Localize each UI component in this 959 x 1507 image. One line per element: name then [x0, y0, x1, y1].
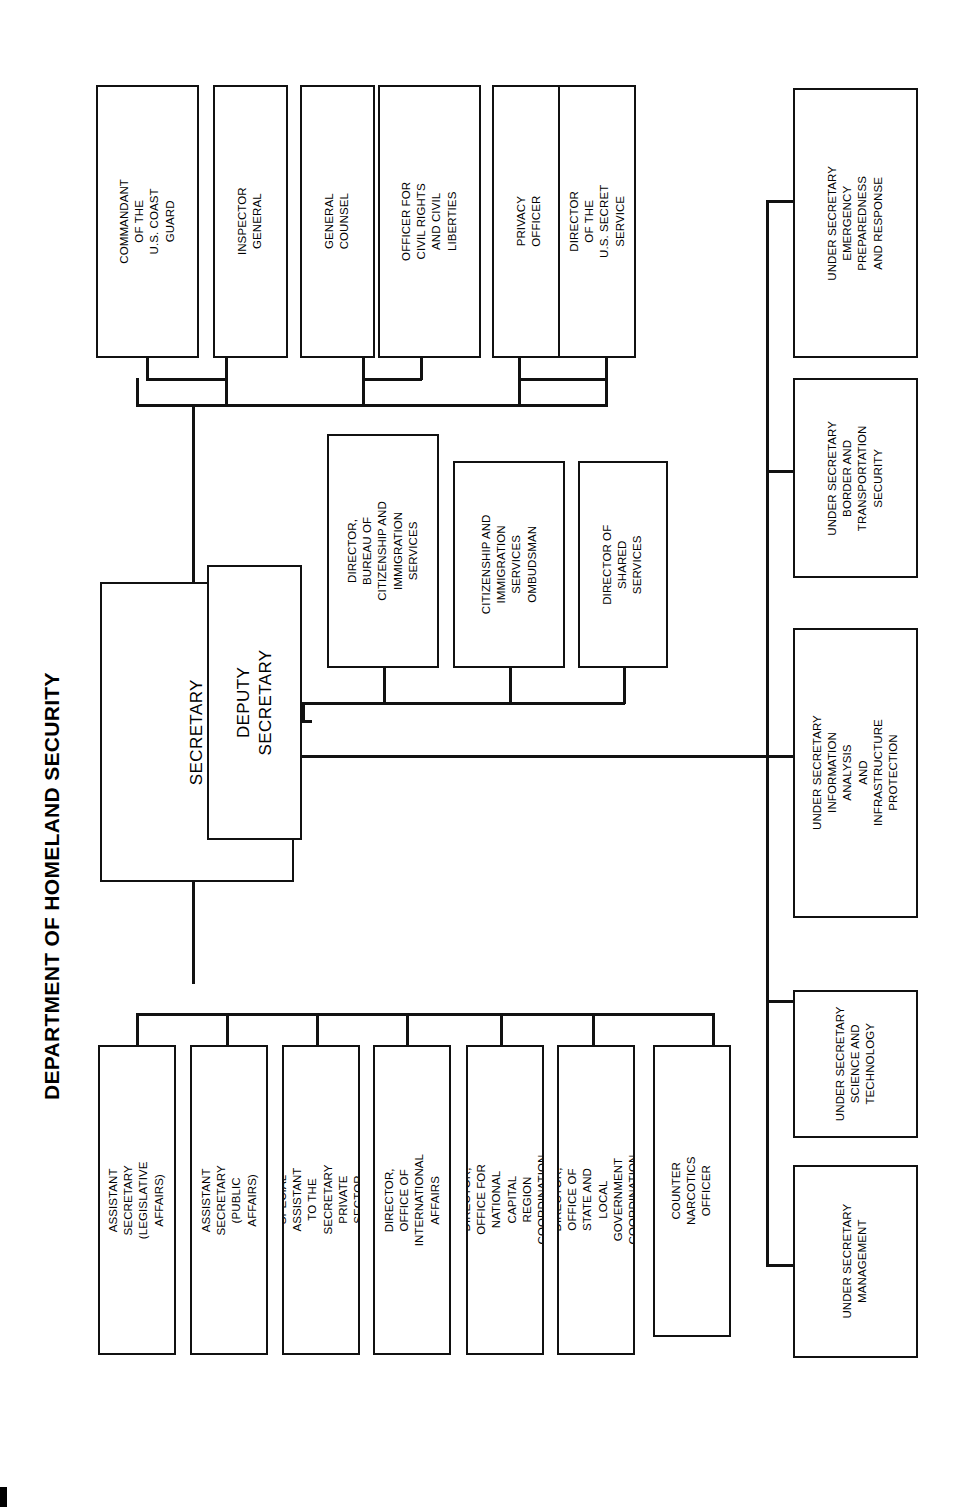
connector-trunk-staff — [192, 880, 195, 984]
connector-stub — [420, 358, 423, 380]
connector-bus-top — [136, 404, 608, 407]
connector-segment — [136, 378, 139, 406]
node-label: SECRETARY — [186, 637, 208, 827]
node-director-office-international-affairs[interactable]: DIRECTOR, OFFICE OF INTERNATIONAL AFFAIR… — [373, 1045, 451, 1355]
node-label: DIRECTOR, BUREAU OF CITIZENSHIP AND IMMI… — [345, 497, 421, 605]
connector-stub — [592, 1013, 595, 1047]
connector-stub — [712, 1013, 715, 1047]
connector-stub — [518, 358, 521, 380]
node-assistant-secretary-public-affairs[interactable]: ASSISTANT SECRETARY (PUBLIC AFFAIRS) — [190, 1045, 268, 1355]
node-label: UNDER SECRETARY BORDER AND TRANSPORTATIO… — [825, 418, 886, 539]
connector-stub — [500, 1013, 503, 1047]
node-under-secretary-information-analysis-infrastructure-protection[interactable]: UNDER SECRETARY INFORMATION ANALYSIS AND… — [793, 628, 918, 918]
node-counter-narcotics-officer[interactable]: COUNTER NARCOTICS OFFICER — [653, 1045, 731, 1337]
connector-stub — [146, 358, 149, 380]
connector-stub — [226, 1013, 229, 1047]
node-label: DEPUTY SECRETARY — [232, 650, 277, 756]
node-inspector-general[interactable]: INSPECTOR GENERAL — [213, 85, 288, 358]
connector-stub — [766, 1000, 795, 1003]
node-label: INSPECTOR GENERAL — [235, 186, 265, 257]
connector-bus-staff — [136, 1013, 714, 1016]
node-label: COMMANDANT OF THE U.S. COAST GUARD — [117, 172, 178, 271]
node-label: DIRECTOR, OFFICE OF STATE AND LOCAL GOVE… — [557, 1155, 635, 1245]
node-director-office-national-capital-region-coordination[interactable]: DIRECTOR, OFFICE FOR NATIONAL CAPITAL RE… — [466, 1045, 544, 1355]
connector-stub — [136, 1013, 139, 1047]
connector-bus-deputy-reports — [302, 702, 625, 705]
connector-deputy-to-undersecretary-bus — [300, 755, 768, 758]
connector-stub — [406, 1013, 409, 1047]
node-label: ASSISTANT SECRETARY (PUBLIC AFFAIRS) — [199, 1163, 260, 1237]
connector-segment — [605, 378, 608, 406]
node-director-us-secret-service[interactable]: DIRECTOR OF THE U.S. SECRET SERVICE — [558, 85, 636, 358]
node-label: DIRECTOR, OFFICE OF INTERNATIONAL AFFAIR… — [382, 1154, 443, 1246]
connector-segment — [225, 378, 228, 406]
connector-segment — [302, 702, 305, 722]
connector-stub — [316, 1013, 319, 1047]
connector-stub — [766, 470, 795, 473]
node-label: DIRECTOR OF THE U.S. SECRET SERVICE — [567, 185, 628, 259]
org-chart-canvas: DEPARTMENT OF HOMELAND SECURITY COMMANDA… — [0, 0, 959, 1507]
node-director-office-state-local-government-coordination[interactable]: DIRECTOR, OFFICE OF STATE AND LOCAL GOVE… — [557, 1045, 635, 1355]
node-commandant-us-coast-guard[interactable]: COMMANDANT OF THE U.S. COAST GUARD — [96, 85, 199, 358]
node-under-secretary-emergency-preparedness-response[interactable]: UNDER SECRETARY EMERGENCY PREPAREDNESS A… — [793, 88, 918, 358]
node-director-shared-services[interactable]: DIRECTOR OF SHARED SERVICES — [578, 461, 668, 668]
node-label: PRIVACY OFFICER — [514, 186, 544, 257]
node-officer-civil-rights-civil-liberties[interactable]: OFFICER FOR CIVIL RIGHTS AND CIVIL LIBER… — [378, 85, 481, 358]
connector-stub — [383, 668, 386, 704]
node-citizenship-immigration-services-ombudsman[interactable]: CITIZENSHIP AND IMMIGRATION SERVICES OMB… — [453, 461, 565, 668]
connector-segment — [362, 378, 365, 406]
node-label: UNDER SECRETARY SCIENCE AND TECHNOLOGY — [833, 1003, 879, 1124]
node-label: COUNTER NARCOTICS OFFICER — [669, 1154, 715, 1228]
node-label: UNDER SECRETARY INFORMATION ANALYSIS AND… — [810, 713, 901, 834]
connector-stub — [225, 358, 228, 380]
node-label: SPECIAL ASSISTANT TO THE SECRETARY PRIVA… — [282, 1163, 360, 1237]
node-deputy-secretary[interactable]: DEPUTY SECRETARY — [207, 565, 302, 840]
node-label: DIRECTOR OF SHARED SERVICES — [600, 521, 646, 607]
connector-segment — [362, 378, 422, 381]
connector-stub — [509, 668, 512, 704]
node-label: CITIZENSHIP AND IMMIGRATION SERVICES OMB… — [479, 511, 540, 619]
node-privacy-officer[interactable]: PRIVACY OFFICER — [492, 85, 567, 358]
node-assistant-secretary-legislative-affairs[interactable]: ASSISTANT SECRETARY (LEGISLATIVE AFFAIRS… — [98, 1045, 176, 1355]
connector-stub — [605, 358, 608, 380]
connector-deputy-out-upper — [300, 720, 312, 723]
scan-artifact-mark — [0, 1487, 7, 1507]
node-label: ASSISTANT SECRETARY (LEGISLATIVE AFFAIRS… — [107, 1161, 168, 1239]
node-general-counsel[interactable]: GENERAL COUNSEL — [300, 85, 375, 358]
node-under-secretary-management[interactable]: UNDER SECRETARY MANAGEMENT — [793, 1165, 918, 1358]
page-title: DEPARTMENT OF HOMELAND SECURITY — [40, 672, 64, 1100]
node-under-secretary-border-transportation-security[interactable]: UNDER SECRETARY BORDER AND TRANSPORTATIO… — [793, 378, 918, 578]
connector-stub — [766, 755, 795, 758]
node-label: UNDER SECRETARY MANAGEMENT — [840, 1201, 870, 1322]
connector-stub — [623, 668, 626, 704]
connector-stub — [766, 200, 795, 203]
node-label: OFFICER FOR CIVIL RIGHTS AND CIVIL LIBER… — [399, 172, 460, 271]
node-label: GENERAL COUNSEL — [322, 186, 352, 257]
node-director-bureau-citizenship-immigration-services[interactable]: DIRECTOR, BUREAU OF CITIZENSHIP AND IMMI… — [327, 434, 439, 668]
connector-segment — [518, 378, 608, 381]
connector-bus-undersecretaries — [766, 200, 769, 1266]
node-label: UNDER SECRETARY EMERGENCY PREPAREDNESS A… — [825, 163, 886, 284]
node-special-assistant-secretary-private-sector[interactable]: SPECIAL ASSISTANT TO THE SECRETARY PRIVA… — [282, 1045, 360, 1355]
connector-trunk-secretary — [192, 404, 195, 584]
connector-segment — [518, 378, 521, 406]
node-under-secretary-science-technology[interactable]: UNDER SECRETARY SCIENCE AND TECHNOLOGY — [793, 990, 918, 1138]
connector-stub — [362, 358, 365, 380]
connector-segment — [146, 378, 227, 381]
connector-stub — [766, 1264, 795, 1267]
node-label: DIRECTOR, OFFICE FOR NATIONAL CAPITAL RE… — [466, 1155, 544, 1245]
